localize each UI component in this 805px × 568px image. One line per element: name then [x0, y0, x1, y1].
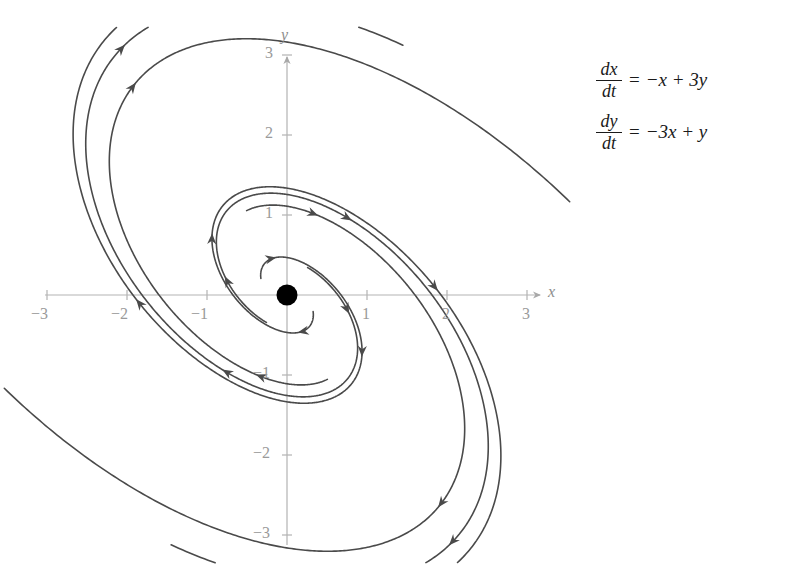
- x-tick-label: −2: [111, 305, 128, 323]
- equation-dy-dt: dy dt = −3x + y: [596, 106, 796, 158]
- fraction-denominator: dt: [599, 133, 619, 153]
- x-tick-label: 2: [442, 305, 450, 323]
- system-equations: dx dt = −x + 3y dy dt = −3x + y: [596, 54, 796, 158]
- x-tick-label: −3: [31, 305, 48, 323]
- y-tick-label: 3: [265, 44, 273, 62]
- y-axis-label: y: [281, 26, 288, 44]
- y-tick-label: −2: [253, 444, 270, 462]
- fraction-numerator: dx: [598, 60, 621, 80]
- y-tick-label: 2: [265, 124, 273, 142]
- equation-right-hand-side: −3x + y: [646, 121, 708, 143]
- trajectory-curve: [109, 39, 569, 385]
- y-tick-label: 1: [265, 204, 273, 222]
- y-tick-label: −1: [253, 364, 270, 382]
- x-tick-label: −1: [191, 305, 208, 323]
- x-axis-label: x: [548, 283, 555, 301]
- equals-sign: =: [629, 69, 640, 91]
- x-tick-label: 3: [522, 305, 530, 323]
- phase-portrait-figure: −3−2−1123321−1−2−3 x y dx dt = −x + 3y d…: [0, 0, 805, 568]
- fraction-numerator: dy: [598, 112, 621, 132]
- fraction-dx-dt: dx dt: [596, 60, 622, 100]
- fraction-dy-dt: dy dt: [596, 112, 622, 152]
- equilibrium-point: [277, 285, 298, 306]
- trajectory-curve: [86, 27, 358, 397]
- equation-dx-dt: dx dt = −x + 3y: [596, 54, 796, 106]
- trajectory-curve: [171, 545, 215, 563]
- flow-direction-arrow: [434, 496, 448, 510]
- trajectory-curve: [359, 27, 403, 45]
- flow-direction-arrow: [306, 207, 320, 220]
- flow-direction-arrow: [126, 80, 140, 94]
- trajectory-curve: [4, 205, 464, 551]
- fraction-denominator: dt: [599, 81, 619, 101]
- equation-right-hand-side: −x + 3y: [646, 69, 708, 91]
- y-tick-label: −3: [253, 524, 270, 542]
- equals-sign: =: [629, 121, 640, 143]
- x-tick-label: 1: [362, 305, 370, 323]
